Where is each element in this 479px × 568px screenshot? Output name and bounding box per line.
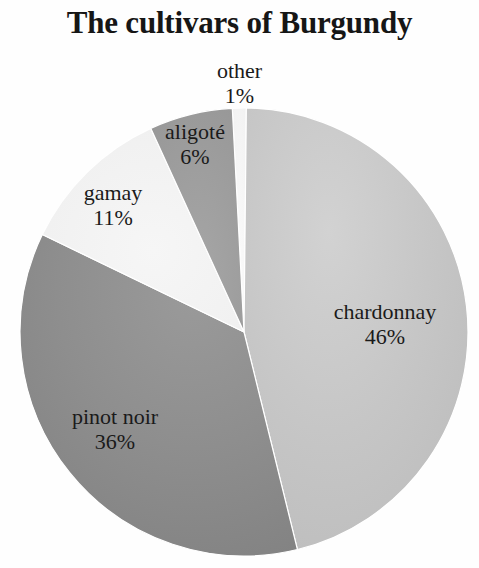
slice-label-gamay: gamay 11% <box>38 180 188 230</box>
slice-label-aligote-value: 6% <box>120 144 270 169</box>
slice-label-pinot-noir: pinot noir 36% <box>20 404 210 454</box>
slice-label-aligote-name: aligoté <box>120 119 270 144</box>
slice-label-chardonnay: chardonnay 46% <box>300 299 470 349</box>
slice-label-pinot-noir-name: pinot noir <box>20 404 210 429</box>
slice-label-chardonnay-name: chardonnay <box>300 299 470 324</box>
slice-label-pinot-noir-value: 36% <box>20 429 210 454</box>
slice-label-other-name: other <box>0 58 479 83</box>
slice-label-chardonnay-value: 46% <box>300 324 470 349</box>
slice-label-gamay-name: gamay <box>38 180 188 205</box>
chart-page: The cultivars of Burgundy <box>0 0 479 568</box>
slice-label-gamay-value: 11% <box>38 205 188 230</box>
slice-label-other: other 1% <box>0 58 479 108</box>
slice-label-other-value: 1% <box>0 83 479 108</box>
slice-label-aligote: aligoté 6% <box>120 119 270 169</box>
